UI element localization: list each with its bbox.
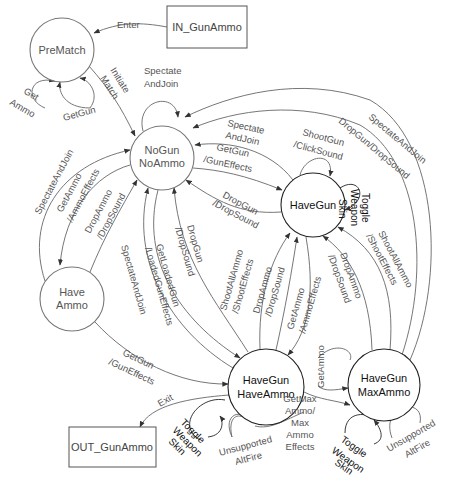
out-label: OUT_GunAmmo — [71, 441, 153, 453]
label-getmaxammo-5: Effects — [286, 441, 315, 452]
have-ammo-label-1: Have — [59, 286, 85, 298]
terminal-out: OUT_GunAmmo — [69, 427, 156, 467]
havegun-maxammo-circle — [348, 349, 420, 421]
label-getmaxammo-3: Max — [291, 417, 309, 428]
state-nogun-noammo: NoGun NoAmmo — [130, 126, 194, 190]
label-getmaxammo-1: GetMax — [283, 393, 317, 404]
label-havegun-toggle-3: Skin — [337, 199, 348, 218]
label-nogun-spectate-1: Spectate — [144, 65, 182, 76]
label-exit: Exit — [156, 391, 176, 409]
nogun-noammo-label-2: NoAmmo — [139, 157, 185, 169]
state-havegun: HaveGun — [281, 173, 345, 237]
label-maxammo-spectate: SpectateAndJoin — [367, 111, 429, 166]
edge-maxammo-toggle-loop2 — [374, 420, 381, 444]
state-havegun-maxammo: HaveGun MaxAmmo — [348, 349, 420, 421]
havegun-maxammo-label-1: HaveGun — [361, 372, 407, 384]
state-diagram: IN_GunAmmo OUT_GunAmmo PreMatch NoGun No… — [0, 0, 453, 487]
label-enter: Enter — [117, 19, 140, 30]
havegun-label: HaveGun — [290, 199, 336, 211]
label-nogun-spectate-2: AndJoin — [144, 78, 178, 89]
edge-haveammo-getgun — [95, 322, 228, 384]
have-ammo-label-2: Ammo — [56, 299, 88, 311]
in-label: IN_GunAmmo — [172, 21, 242, 33]
terminal-in: IN_GunAmmo — [167, 6, 247, 48]
edge-prematch-getgun-loop — [60, 82, 90, 108]
state-prematch: PreMatch — [30, 18, 94, 82]
label-prematch-get: Get — [22, 85, 41, 102]
nogun-noammo-label-1: NoGun — [145, 144, 180, 156]
label-getmaxammo-4: Ammo — [286, 429, 313, 440]
label-maxammo-getammo: GetAmmo — [315, 345, 326, 388]
label-getmaxammo-2: Ammo/ — [285, 405, 315, 416]
edge-haveboth-toggle-loop2 — [208, 416, 222, 437]
prematch-label: PreMatch — [38, 44, 85, 56]
state-have-ammo: Have Ammo — [40, 267, 104, 331]
havegun-maxammo-label-2: MaxAmmo — [358, 386, 411, 398]
label-havegun-toggle-1: Toggle — [360, 193, 371, 223]
havegun-haveammo-label-1: HaveGun — [243, 374, 289, 386]
label-havegun-toggle-2: Weapon — [349, 189, 360, 226]
